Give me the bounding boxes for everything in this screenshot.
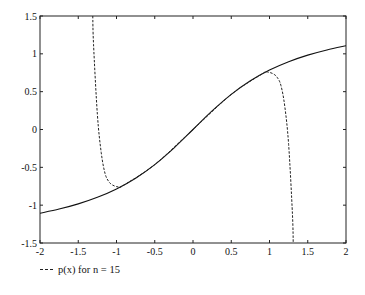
y-axis-tick-labels: -1.5-1-0.500.511.5 <box>21 11 37 249</box>
x-tick-label: -1 <box>112 246 120 257</box>
x-tick-label: 2 <box>344 246 349 257</box>
plot-area: -2-1.5-1-0.500.511.52 -1.5-1-0.500.511.5 <box>21 11 348 258</box>
x-tick-label: 1.5 <box>302 246 315 257</box>
x-tick-label: -1.5 <box>70 246 86 257</box>
legend-label: p(x) for n = 15 <box>58 264 120 275</box>
dashed-curve-p15 <box>93 16 293 243</box>
y-tick-label: -0.5 <box>21 162 37 173</box>
legend: p(x) for n = 15 <box>40 264 120 275</box>
x-tick-label: 1 <box>267 246 272 257</box>
x-tick-label: 0.5 <box>225 246 238 257</box>
dashed-line-swatch-icon <box>40 269 53 270</box>
y-tick-label: 1 <box>32 48 37 59</box>
y-tick-label: -1.5 <box>21 238 37 249</box>
x-tick-label: -0.5 <box>147 246 163 257</box>
y-tick-label: 1.5 <box>25 11 38 22</box>
x-tick-label: 0 <box>191 246 196 257</box>
y-tick-label: -1 <box>29 200 37 211</box>
x-axis-tick-labels: -2-1.5-1-0.500.511.52 <box>36 246 349 257</box>
chart: -2-1.5-1-0.500.511.52 -1.5-1-0.500.511.5 <box>0 0 365 262</box>
x-tick-label: -2 <box>36 246 44 257</box>
y-tick-label: 0.5 <box>25 86 38 97</box>
y-tick-label: 0 <box>32 124 37 135</box>
